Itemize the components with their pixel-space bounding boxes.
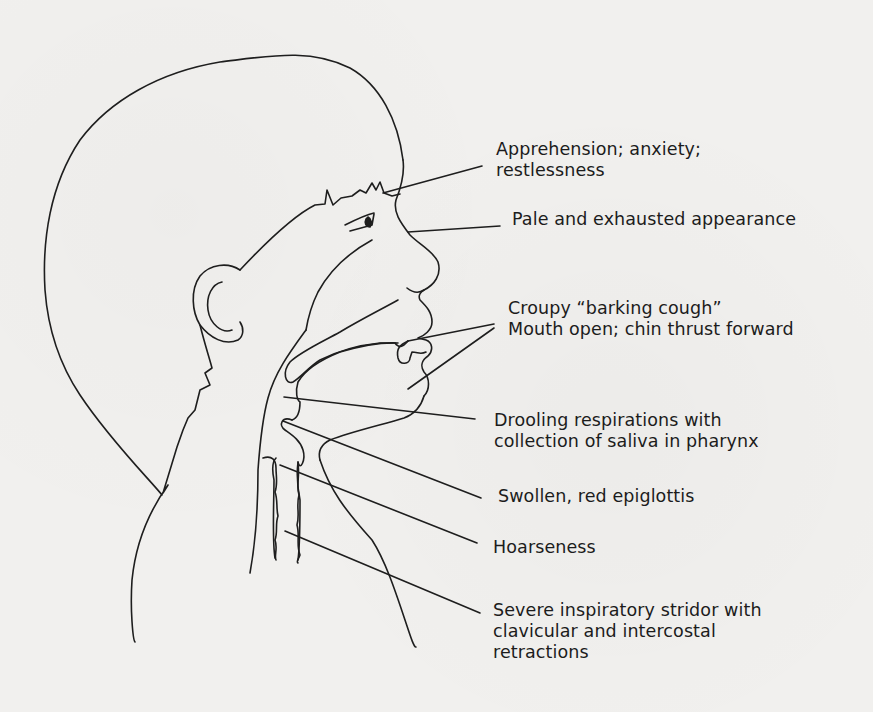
hairline xyxy=(240,182,400,270)
label-pale-exhausted: Pale and exhausted appearance xyxy=(512,209,796,230)
skull-outline xyxy=(44,55,403,495)
neck-back xyxy=(131,325,212,642)
label-apprehension: Apprehension; anxiety; restlessness xyxy=(496,139,701,181)
leader-epiglottis xyxy=(283,421,481,498)
nasal-cavity xyxy=(285,300,408,382)
cheek-line xyxy=(306,240,372,330)
neck-front xyxy=(320,460,416,647)
epiglottis xyxy=(281,419,303,466)
nostril xyxy=(407,288,424,292)
leader-drooling xyxy=(284,397,475,419)
label-swollen-epiglottis: Swollen, red epiglottis xyxy=(498,486,695,507)
label-inspiratory-stridor: Severe inspiratory stridor with clavicul… xyxy=(493,600,762,663)
leader-stridor xyxy=(285,531,480,613)
label-croupy-cough: Croupy “barking cough” Mouth open; chin … xyxy=(508,298,794,340)
tongue-top xyxy=(397,341,426,363)
leader-croupy-a xyxy=(408,324,494,341)
leader-apprehension xyxy=(383,166,482,193)
eye-pupil xyxy=(365,217,371,227)
leader-hoarseness xyxy=(280,465,477,543)
label-hoarseness: Hoarseness xyxy=(493,537,596,558)
tracheal-cartilage xyxy=(263,457,278,560)
face-profile xyxy=(395,160,439,396)
diagram-canvas: Apprehension; anxiety; restlessness Pale… xyxy=(0,0,873,712)
leader-pale xyxy=(408,226,500,232)
label-drooling: Drooling respirations with collection of… xyxy=(494,410,759,452)
ear-inner xyxy=(208,282,232,331)
chin-line xyxy=(319,396,424,460)
